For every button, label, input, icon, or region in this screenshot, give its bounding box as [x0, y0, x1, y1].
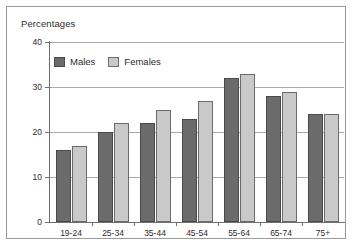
- y-tick-label-10: 10: [33, 172, 42, 182]
- y-tick-mark-10: [45, 177, 49, 178]
- bar-females-35-44[interactable]: [156, 110, 171, 223]
- plot-area: 010203040: [50, 42, 344, 222]
- bar-females-25-34[interactable]: [114, 123, 129, 222]
- x-axis-separator-3: [176, 222, 177, 226]
- bar-females-19-24[interactable]: [72, 146, 87, 223]
- x-tick-label-65-74: 65-74: [270, 228, 292, 238]
- bar-females-65-74[interactable]: [282, 92, 297, 223]
- x-tick-label-75+: 75+: [316, 228, 330, 238]
- bar-groups: [50, 42, 344, 222]
- y-tick-label-20: 20: [33, 127, 42, 137]
- y-tick-label-40: 40: [33, 37, 42, 47]
- bar-females-75+[interactable]: [324, 114, 339, 222]
- bar-group-19-24: [50, 42, 92, 222]
- bar-group-35-44: [134, 42, 176, 222]
- page-title: Percentages: [21, 18, 75, 29]
- x-tick-label-25-34: 25-34: [102, 228, 124, 238]
- bar-females-45-54[interactable]: [198, 101, 213, 223]
- x-axis-line: [49, 222, 345, 223]
- x-tick-label-55-64: 55-64: [228, 228, 250, 238]
- chart-page: Percentages Males Females 010203040 19-2…: [0, 0, 352, 245]
- y-tick-mark-20: [45, 132, 49, 133]
- y-tick-mark-40: [45, 42, 49, 43]
- bar-males-65-74[interactable]: [266, 96, 281, 222]
- bar-males-25-34[interactable]: [98, 132, 113, 222]
- bar-group-45-54: [176, 42, 218, 222]
- y-tick-label-30: 30: [33, 82, 42, 92]
- bar-group-25-34: [92, 42, 134, 222]
- bar-males-75+[interactable]: [308, 114, 323, 222]
- bar-males-19-24[interactable]: [56, 150, 71, 222]
- x-axis-separator-5: [260, 222, 261, 226]
- bar-males-45-54[interactable]: [182, 119, 197, 223]
- y-tick-label-0: 0: [37, 217, 42, 227]
- bar-females-55-64[interactable]: [240, 74, 255, 223]
- x-tick-label-19-24: 19-24: [60, 228, 82, 238]
- x-axis-separator-4: [218, 222, 219, 226]
- figure-frame: Percentages Males Females 010203040 19-2…: [6, 6, 346, 239]
- bar-group-75+: [302, 42, 344, 222]
- y-tick-mark-30: [45, 87, 49, 88]
- x-axis-separator-2: [134, 222, 135, 226]
- bar-males-35-44[interactable]: [140, 123, 155, 222]
- x-tick-label-35-44: 35-44: [144, 228, 166, 238]
- bar-males-55-64[interactable]: [224, 78, 239, 222]
- bar-group-65-74: [260, 42, 302, 222]
- bar-group-55-64: [218, 42, 260, 222]
- y-tick-mark-0: [45, 222, 49, 223]
- x-axis-separator-6: [302, 222, 303, 226]
- x-axis-separator-1: [92, 222, 93, 226]
- x-tick-label-45-54: 45-54: [186, 228, 208, 238]
